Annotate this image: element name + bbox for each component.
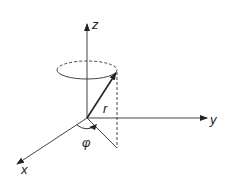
y-axis-label: y xyxy=(210,113,217,126)
coordinate-diagram xyxy=(0,0,231,180)
z-axis-label: z xyxy=(92,18,99,31)
r-vector-label: r xyxy=(103,102,107,115)
x-axis xyxy=(17,118,87,164)
phi-arrowhead xyxy=(89,124,97,130)
x-axis-label: x xyxy=(21,163,28,176)
phi-angle-label: φ xyxy=(82,136,90,149)
r-vector xyxy=(87,73,116,118)
xy-projection xyxy=(87,118,117,148)
